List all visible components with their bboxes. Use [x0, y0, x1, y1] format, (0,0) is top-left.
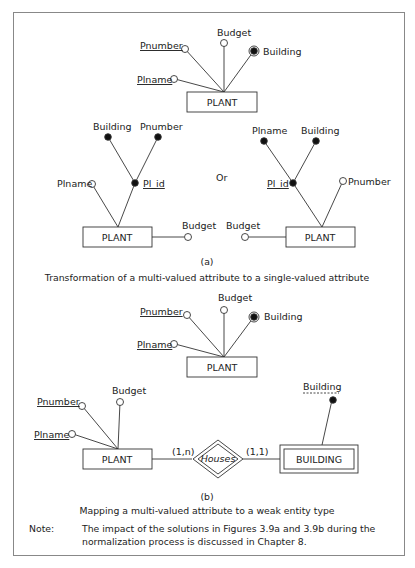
entity-plant: PLANT: [102, 454, 133, 465]
note-label: Note:: [29, 522, 54, 535]
attr-building-partial-key: Building: [303, 381, 342, 392]
attr-budget: Budget: [218, 292, 252, 303]
attr-building-multivalued: Building: [263, 46, 302, 57]
er-diagram: Pnumber Budget Building Plname PLANT Bui…: [0, 0, 415, 568]
attr-pnumber: Pnumber: [140, 40, 183, 51]
attr-budget: Budget: [112, 385, 146, 396]
attr-plname: Plname: [57, 178, 92, 189]
caption-b-text: Mapping a multi-valued attribute to a we…: [79, 505, 334, 516]
cardinality-right: (1,1): [246, 446, 269, 457]
cardinality-left: (1,n): [172, 446, 195, 457]
caption-a-text: Transformation of a multi-valued attribu…: [44, 272, 370, 283]
attr-budget: Budget: [217, 27, 251, 38]
attr-budget: Budget: [182, 220, 216, 231]
attr-plname: Plname: [34, 429, 69, 440]
caption-a-label: (a): [201, 256, 214, 267]
attr-building: Building: [301, 125, 340, 136]
attr-building: Building: [93, 121, 132, 132]
or-label: Or: [216, 172, 227, 183]
relationship-houses: Houses: [201, 453, 236, 464]
entity-plant: PLANT: [305, 232, 336, 243]
attr-pnumber: Pnumber: [37, 396, 80, 407]
attr-pnumber: Pnumber: [140, 306, 183, 317]
weak-entity-building: BUILDING: [296, 454, 342, 465]
entity-plant: PLANT: [207, 97, 238, 108]
attr-pl-id: Pl_id: [143, 178, 165, 189]
attr-plname: Plname: [252, 125, 287, 136]
entity-plant: PLANT: [207, 362, 238, 373]
attr-plname: Plname: [137, 74, 172, 85]
attr-pnumber: Pnumber: [140, 121, 183, 132]
attr-pl-id: Pl_id: [267, 178, 289, 189]
attr-building-multivalued: Building: [264, 311, 303, 322]
attr-pnumber: Pnumber: [348, 176, 391, 187]
attr-plname: Plname: [137, 339, 172, 350]
entity-plant: PLANT: [102, 232, 133, 243]
note-text: The impact of the solutions in Figures 3…: [82, 522, 382, 548]
caption-b-label: (b): [200, 491, 213, 502]
attr-budget: Budget: [226, 220, 260, 231]
